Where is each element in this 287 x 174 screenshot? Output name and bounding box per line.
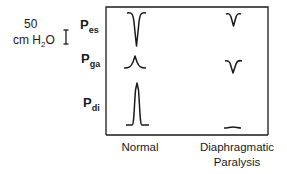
paralysis-pdi-trace [224, 127, 241, 128]
condition-label-paralysis: Diaphragmatic Paralysis [187, 140, 287, 170]
normal-pga-trace [124, 56, 146, 68]
normal-pdi-trace [126, 83, 149, 125]
paralysis-pes-trace [226, 14, 241, 26]
normal-pes-trace [127, 13, 146, 46]
condition-label-normal: Normal [114, 140, 166, 155]
normal-traces [124, 13, 149, 125]
paralysis-pga-trace [225, 61, 242, 73]
paralysis-traces [224, 14, 242, 128]
scale-bar-icon [64, 30, 69, 44]
plot-frame [106, 7, 268, 135]
